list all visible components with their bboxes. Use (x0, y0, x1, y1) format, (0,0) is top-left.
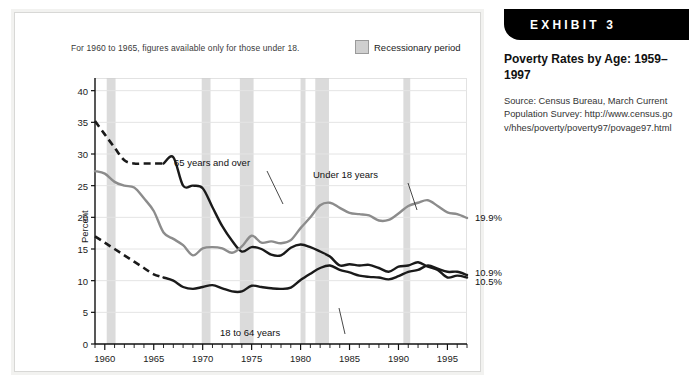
y-tick-label: 20 (77, 212, 88, 223)
recession-band (403, 78, 410, 344)
legend-label-recession: Recessionary period (374, 42, 461, 53)
x-tick-label: 1965 (143, 353, 164, 364)
recession-band (107, 78, 116, 344)
chart-footnote: For 1960 to 1965, figures available only… (71, 43, 300, 53)
plot-area: Percent 05101520253035401960196519701975… (95, 78, 467, 344)
exhibit-tab-label: EXHIBIT 3 (530, 18, 616, 32)
exhibit-tab: EXHIBIT 3 (504, 9, 689, 40)
chart-svg (95, 78, 467, 344)
x-tick-label: 1970 (192, 353, 213, 364)
recession-band (240, 78, 254, 344)
y-tick-label: 15 (77, 244, 88, 255)
x-tick-label: 1985 (339, 353, 360, 364)
series-line-dashed (95, 121, 164, 164)
y-tick-label: 10 (77, 275, 88, 286)
leader-over65 (267, 171, 283, 204)
exhibit-title: Poverty Rates by Age: 1959–1997 (504, 52, 674, 83)
series-line-dashed (95, 236, 164, 277)
recession-band (301, 78, 306, 344)
x-tick-label: 1990 (388, 353, 409, 364)
recession-swatch-icon (355, 40, 369, 54)
y-tick-label: 0 (83, 339, 88, 350)
exhibit-side-panel: Poverty Rates by Age: 1959–1997 Source: … (504, 52, 674, 135)
end-label-over65: 10.5% (475, 276, 502, 287)
end-label-under18: 19.9% (475, 212, 502, 223)
y-tick-label: 30 (77, 149, 88, 160)
y-tick-label: 5 (83, 307, 88, 318)
annotation-adults: 18 to 64 years (220, 327, 280, 338)
x-tick-label: 1980 (290, 353, 311, 364)
y-tick-label: 35 (77, 117, 88, 128)
annotation-under18: Under 18 years (313, 169, 378, 180)
y-tick-label: 40 (77, 85, 88, 96)
recession-band (202, 78, 211, 344)
legend: Recessionary period (355, 40, 461, 54)
x-tick-label: 1960 (94, 353, 115, 364)
exhibit-source: Source: Census Bureau, March Current Pop… (504, 95, 674, 135)
recession-band (315, 78, 329, 344)
series-line (95, 171, 467, 255)
exhibit-page: For 1960 to 1965, figures available only… (0, 0, 689, 392)
y-tick-label: 25 (77, 180, 88, 191)
x-tick-label: 1975 (241, 353, 262, 364)
chart-card: For 1960 to 1965, figures available only… (14, 12, 481, 372)
x-tick-label: 1995 (437, 353, 458, 364)
annotation-over65: 65 years and over (174, 157, 250, 168)
